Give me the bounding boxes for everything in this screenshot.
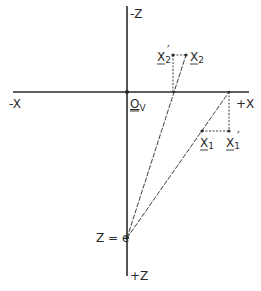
pos-z-label: +Z (130, 269, 148, 283)
x2-prime-point (171, 53, 174, 56)
ray-to-x1-projection (127, 92, 229, 238)
x2-axis-intersection (173, 91, 175, 93)
x2-point (184, 53, 187, 56)
projection-diagram: -Z +Z -X +X OV Z = e X2 X2′ X1 X1′ (0, 0, 261, 291)
x1-axis-intersection (228, 91, 230, 93)
x1-point (200, 129, 203, 132)
x1-prime-point (227, 129, 230, 132)
eye-point-label: Z = e (96, 231, 129, 245)
x1-label: X1 (200, 136, 214, 151)
neg-x-label: -X (9, 97, 21, 111)
origin-point (125, 90, 129, 94)
x2-label: X2 (190, 50, 204, 65)
origin-letter: O (130, 97, 139, 111)
origin-subscript: V (139, 103, 146, 113)
x2-prime-label: X2′ (157, 43, 171, 65)
pos-x-label: +X (236, 97, 254, 111)
ray-to-x2 (127, 55, 186, 238)
neg-z-label: -Z (130, 7, 143, 21)
